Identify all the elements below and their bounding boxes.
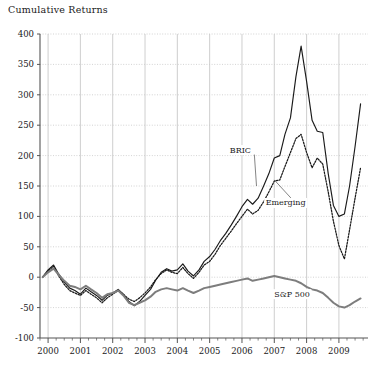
x-tick-label: 2008 [296,346,318,356]
y-tick-label: 100 [18,211,34,221]
annotation-leader-line [254,155,256,186]
x-tick-label: 2004 [167,346,189,356]
y-tick-label: -50 [20,303,34,313]
y-tick-label: -100 [15,333,34,343]
y-tick-label: 250 [18,120,34,130]
x-tick-label: 2005 [199,346,221,356]
x-tick-label: 2006 [231,346,253,356]
series-line-bric [43,46,361,306]
y-tick-label: 50 [23,242,34,252]
y-tick-label: 0 [29,272,34,282]
x-tick-label: 2000 [37,346,59,356]
x-tick-label: 2007 [263,346,285,356]
series-annotation-label: S&P 500 [274,290,310,299]
y-tick-label: 150 [18,181,34,191]
y-tick-label: 300 [18,90,34,100]
series-annotation-label: BRIC [230,146,251,155]
series-annotation-label: Emerging [266,198,306,207]
x-tick-label: 2009 [328,346,350,356]
chart-plot-area: 400350300250200150100500-50-100200020012… [0,0,380,365]
x-tick-label: 2003 [134,346,156,356]
y-tick-label: 350 [18,59,34,69]
series-line-s-p-500 [43,269,361,308]
x-tick-label: 2001 [70,346,92,356]
y-tick-label: 200 [18,151,34,161]
x-tick-label: 2002 [102,346,124,356]
cumulative-returns-chart: Cumulative Returns 400350300250200150100… [0,0,380,365]
y-tick-label: 400 [18,29,34,39]
